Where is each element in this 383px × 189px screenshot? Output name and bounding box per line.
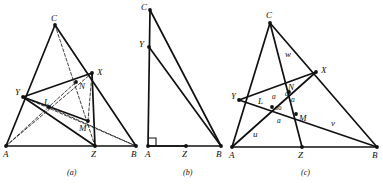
edge-YZ bbox=[23, 97, 95, 146]
diagram-c-label-angle-60: 60 bbox=[275, 105, 282, 112]
vertex-dot-y bbox=[21, 95, 25, 99]
edge-AC bbox=[6, 25, 55, 146]
diagram-c-label-side-a-bottom: a bbox=[277, 117, 281, 125]
diagram-c-label-side-a-inner: a bbox=[285, 90, 289, 98]
diagram-a-label-z: Z bbox=[91, 150, 96, 159]
vertex-dot-a bbox=[230, 145, 234, 149]
diagram-c-label-y: Y bbox=[231, 92, 236, 101]
vertex-dot-x bbox=[90, 71, 94, 75]
edge-AC bbox=[232, 23, 270, 147]
vertex-dot-z bbox=[300, 145, 304, 149]
diagram-a-label-y: Y bbox=[15, 88, 20, 97]
diagram-c-label-u: u bbox=[253, 130, 258, 139]
diagram-a-label-m: M bbox=[79, 124, 87, 133]
diagram-a-label-n: N bbox=[79, 82, 85, 91]
vertex-dot-b bbox=[134, 144, 138, 148]
vertex-dot-a bbox=[4, 144, 8, 148]
edge-AX bbox=[232, 72, 316, 147]
vertex-dot-b bbox=[219, 144, 223, 148]
edge-CA bbox=[148, 10, 150, 146]
diagram-a-label-b: B bbox=[131, 150, 137, 159]
diagram-a-label-c: C bbox=[51, 14, 57, 23]
diagram-c-label-l: L bbox=[258, 97, 263, 106]
caption-c: (c) bbox=[301, 168, 310, 177]
vertex-dot-c bbox=[53, 23, 57, 27]
diagram-b-label-c: C bbox=[141, 3, 147, 12]
vertex-dot-y bbox=[147, 45, 151, 49]
vertex-dot-a bbox=[146, 144, 150, 148]
vertex-dot-n bbox=[74, 80, 78, 84]
diagram-c-label-side-a-top-left: a bbox=[272, 93, 276, 101]
diagram-c-label-w: w bbox=[285, 50, 291, 59]
diagram-c-label-m: M bbox=[299, 114, 307, 123]
diagram-a-label-l: L bbox=[44, 98, 49, 107]
geometry-figure-panel-set: CXYLNMAZB(a)CYAZB(b)CXYNLMAZBwvuaaaa60(c… bbox=[0, 0, 383, 189]
diagram-c-label-b: B bbox=[372, 151, 378, 160]
diagram-c-label-c: C bbox=[266, 11, 272, 20]
diagram-c-label-z: Z bbox=[298, 151, 303, 160]
diagram-b-label-z: Z bbox=[182, 150, 187, 159]
diagram-a-label-x: X bbox=[97, 68, 103, 77]
figure-canvas bbox=[0, 0, 383, 189]
vertex-dot-m bbox=[294, 112, 298, 116]
caption-b: (b) bbox=[183, 168, 192, 177]
edge-dashed-CZ bbox=[55, 25, 95, 146]
vertex-dot-z bbox=[93, 144, 97, 148]
diagram-b-label-b: B bbox=[216, 150, 222, 159]
diagram-c-label-side-a-top-right: a bbox=[291, 96, 295, 104]
vertex-dot-x bbox=[314, 70, 318, 74]
diagram-b-label-y: Y bbox=[139, 40, 144, 49]
diagram-b-label-a: A bbox=[145, 150, 151, 159]
diagram-b bbox=[146, 8, 223, 148]
vertex-dot-c bbox=[148, 8, 152, 12]
vertex-dot-c bbox=[268, 21, 272, 25]
vertex-dot-l bbox=[270, 105, 274, 109]
diagram-c-label-x: X bbox=[321, 66, 327, 75]
edge-YB bbox=[149, 47, 221, 146]
vertex-dot-b bbox=[375, 145, 379, 149]
caption-a: (a) bbox=[67, 168, 76, 177]
edge-CB bbox=[150, 10, 221, 146]
diagram-c-label-v: v bbox=[331, 119, 335, 128]
diagram-a bbox=[4, 23, 138, 148]
diagram-c-label-a: A bbox=[229, 151, 235, 160]
vertex-dot-y bbox=[237, 98, 241, 102]
vertex-dot-z bbox=[184, 144, 188, 148]
diagram-a-label-a: A bbox=[3, 150, 9, 159]
